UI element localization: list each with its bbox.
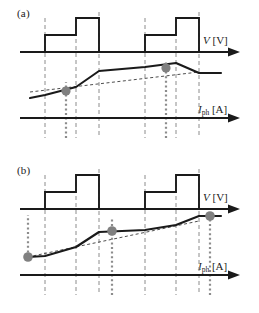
panel-b-sampling-marker-1 [23,215,33,262]
panel-a-trend-line [30,72,199,92]
panel-b-voltage-waveform [32,175,222,209]
panel-b-sampling-marker-2 [107,219,117,295]
panel-a-voltage-axis [20,48,240,57]
panel-b-plot [0,157,259,313]
panel-b: (b) V [V] Iph [A] [0,157,259,313]
panel-b-sampling-marker-3 [205,211,215,295]
panel-b-current-axis [20,271,240,280]
figure-container: (a) V [V] Iph [A] [0,0,259,313]
panel-a-sampling-marker-2 [161,60,170,138]
panel-a: (a) V [V] Iph [A] [0,0,259,156]
panel-a-sampling-marker-1 [61,82,70,138]
panel-a-plot [0,0,259,156]
panel-b-voltage-axis [20,205,240,214]
panel-a-current-axis [20,114,240,123]
panel-a-voltage-waveform [32,18,222,52]
